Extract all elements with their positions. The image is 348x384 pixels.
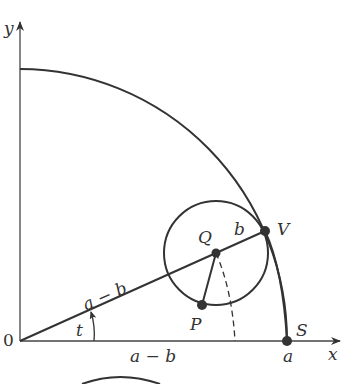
point-P (197, 300, 207, 310)
x-projection-label: a − b (130, 346, 176, 366)
lower-circle-arc (82, 377, 160, 384)
segment-Q-to-P (202, 253, 216, 305)
x-axis-label: x (328, 344, 338, 364)
radius-b-label: b (234, 219, 245, 239)
dashed-projection (216, 253, 235, 341)
point-S (282, 336, 292, 346)
segment-OQ-label: a − b (79, 277, 129, 314)
hypocycloid-diagram: y x 0 Q b V P S a − b t a − b a (0, 0, 348, 384)
fixed-circle-arc (20, 69, 287, 341)
point-V-label: V (277, 219, 291, 239)
y-axis-label: y (3, 18, 14, 38)
point-Q-label: Q (198, 227, 212, 247)
x-intercept-label: a (283, 346, 293, 366)
point-P-label: P (189, 314, 202, 334)
point-V (260, 226, 270, 236)
angle-arc (91, 312, 94, 341)
point-S-label: S (296, 320, 308, 340)
angle-t-label: t (76, 320, 83, 340)
point-Q (212, 249, 221, 258)
line-O-to-V (20, 231, 265, 341)
origin-label: 0 (3, 330, 14, 350)
